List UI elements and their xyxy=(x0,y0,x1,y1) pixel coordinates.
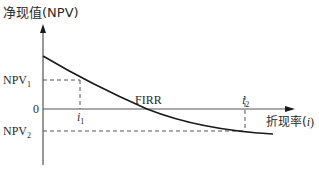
i1-label: i1 xyxy=(77,110,84,126)
y-axis-arrow-icon xyxy=(40,24,46,33)
x-axis-label: 折现率(i) xyxy=(266,114,314,129)
i2-label: i2 xyxy=(242,93,249,109)
x-axis-arrow-icon xyxy=(285,106,295,112)
npv2-label: NPV2 xyxy=(3,124,31,140)
zero-label: 0 xyxy=(33,102,39,116)
npv1-label: NPV1 xyxy=(3,73,31,89)
y-axis-label: 净现值(NPV) xyxy=(3,5,79,20)
npv-diagram: 净现值(NPV) NPV1 0 NPV2 i1 i2 FIRR 折现率(i) xyxy=(0,0,319,172)
firr-label: FIRR xyxy=(135,93,162,107)
